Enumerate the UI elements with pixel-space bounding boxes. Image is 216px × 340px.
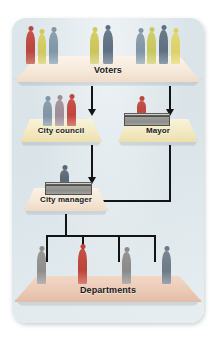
arrow-head-down-icon [88,109,96,116]
person-body [67,99,76,126]
person-body [159,30,168,64]
bracket-stem [65,214,67,236]
person-body [147,32,156,64]
voter-person-3 [49,27,58,64]
person-body [122,252,131,284]
stage-city-council-label: City council [20,126,102,135]
council-person-3 [67,94,76,126]
bracket-crossbar [46,235,156,237]
connector-line [169,86,171,110]
person-body [103,30,113,64]
person-body [26,31,35,64]
department-person-4 [162,246,171,284]
bracket-drop-3 [118,235,120,262]
voter-person-4 [90,27,99,64]
person-body [90,32,99,64]
connector-line-vertical [169,145,171,202]
person-body [43,101,52,126]
council-person-1 [43,96,52,126]
desk-top [124,113,170,116]
desk-top [45,182,92,185]
voter-person-7 [147,27,156,64]
stage-city-manager-label: City manager [24,195,108,204]
department-person-1 [37,246,46,284]
person-body [162,251,171,284]
stage-departments-label: Departments [14,285,202,295]
person-body [37,251,46,284]
voter-person-5 [103,25,113,64]
voter-person-6 [136,28,145,64]
voter-person-8 [159,25,168,64]
person-body [49,32,58,64]
person-body [78,249,87,284]
voter-person-9 [171,28,180,64]
voter-person-1 [26,26,35,64]
diagram-root: Voters [0,0,216,340]
diagram-card: Voters [12,18,204,323]
desk-face [124,116,170,126]
city-manager-desk [45,182,92,195]
person-body [136,33,145,64]
person-body [38,34,46,64]
mayor-desk [124,113,170,126]
bracket-drop-4 [154,235,156,262]
stage-voters-label: Voters [14,65,202,75]
desk-face [45,185,92,195]
stage-mayor-label: Mayor [118,126,198,135]
connector-line [91,145,93,178]
person-body [55,100,64,126]
council-person-2 [55,95,64,126]
connector-line [91,86,93,110]
voter-person-2 [38,29,46,64]
department-person-2 [78,244,87,284]
department-person-3 [122,247,131,284]
person-body [171,33,180,64]
connector-line-horizontal [99,200,171,202]
bracket-drop-1 [46,235,48,262]
